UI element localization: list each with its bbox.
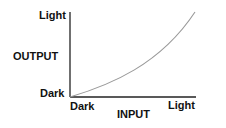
response-curve — [70, 12, 195, 97]
y-axis-top-label: Light — [39, 10, 66, 21]
y-axis-bottom-label: Dark — [40, 88, 64, 99]
x-axis-left-label: Dark — [70, 101, 94, 112]
y-axis-title: OUTPUT — [13, 51, 58, 62]
x-axis-right-label: Light — [168, 100, 195, 111]
x-axis-title: INPUT — [117, 109, 150, 120]
